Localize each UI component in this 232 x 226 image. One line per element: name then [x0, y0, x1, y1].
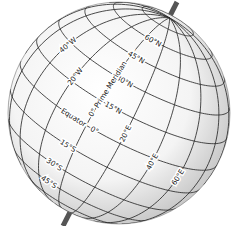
globe-diagram: 60°N60°N45°N45°N30°N30°N15°N15°N0°0°Equa… — [0, 0, 232, 226]
globe-svg: 60°N60°N45°N45°N30°N30°N15°N15°N0°0°Equa… — [0, 0, 232, 226]
